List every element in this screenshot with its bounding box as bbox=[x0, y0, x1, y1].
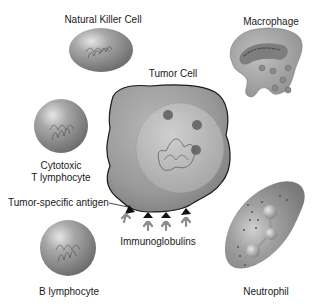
b-lymphocyte-cell bbox=[40, 220, 96, 276]
macrophage-label: Macrophage bbox=[241, 16, 301, 28]
b-lymphocyte-label: B lymphocyte bbox=[34, 286, 104, 298]
immunoglobulins-label: Immunoglobulins bbox=[118, 236, 198, 248]
cytotoxic-t-label-line1: Cytotoxic bbox=[30, 160, 92, 172]
diagram-canvas bbox=[0, 0, 315, 304]
tumor-cell bbox=[107, 85, 230, 212]
tumor-antigen-label: Tumor-specific antigen bbox=[8, 197, 108, 209]
natural-killer-label: Natural Killer Cell bbox=[60, 14, 146, 26]
natural-killer-cell bbox=[69, 28, 133, 72]
macrophage-cell bbox=[230, 28, 302, 97]
immune-cells-diagram: Natural Killer Cell Macrophage Tumor Cel… bbox=[0, 0, 315, 304]
cytotoxic-t-label-line2: T lymphocyte bbox=[26, 172, 96, 184]
tumor-cell-label: Tumor Cell bbox=[145, 68, 201, 80]
neutrophil-label: Neutrophil bbox=[236, 286, 296, 298]
cytotoxic-t-cell bbox=[34, 99, 88, 153]
neutrophil-cell bbox=[225, 181, 305, 268]
immunoglobulins bbox=[122, 214, 190, 230]
